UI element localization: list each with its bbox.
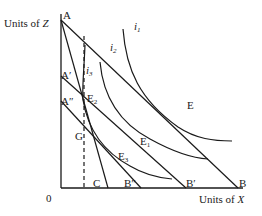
point-b-prime-label: B′ bbox=[186, 177, 196, 189]
point-e-label: E bbox=[187, 99, 194, 111]
curve-i2-label: i2 bbox=[110, 41, 117, 55]
curve-i3-label: i3 bbox=[86, 64, 93, 78]
budget-line-ab bbox=[61, 20, 238, 188]
point-b-label: B bbox=[239, 177, 246, 189]
point-a-prime-label: A′ bbox=[61, 69, 71, 81]
indifference-curve-diagram: Units of Z Units of X 0 A A′ A″ B B′ B″ … bbox=[0, 0, 262, 216]
point-b-double-prime-label: B″ bbox=[124, 177, 136, 189]
point-e1-label: E1 bbox=[140, 135, 151, 149]
origin-label: 0 bbox=[46, 192, 52, 204]
curve-i1-label: i1 bbox=[134, 20, 141, 34]
x-axis-title: Units of X bbox=[199, 193, 246, 205]
point-a-double-prime-label: A″ bbox=[61, 95, 74, 107]
point-c-label: C bbox=[93, 177, 100, 189]
point-e3-label: E3 bbox=[118, 150, 129, 164]
point-g-label: G bbox=[75, 130, 83, 142]
point-e2-label: E2 bbox=[87, 92, 98, 106]
y-axis-title: Units of Z bbox=[4, 17, 50, 29]
budget-line-a-double-prime-b-double-prime bbox=[61, 101, 141, 188]
indifference-curve-i1 bbox=[123, 29, 232, 141]
point-a-label: A bbox=[63, 9, 71, 21]
